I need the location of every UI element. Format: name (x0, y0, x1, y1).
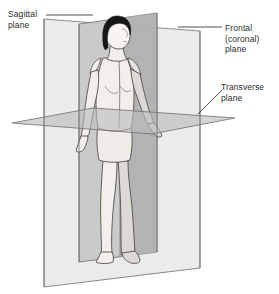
label-sagittal-plane: Sagittal plane (8, 9, 37, 30)
label-transverse-plane: Transverse plane (221, 82, 264, 103)
body-planes-diagram: Sagittal plane Frontal (coronal) plane T… (0, 0, 279, 294)
leader-line-transverse (198, 90, 222, 114)
label-frontal-plane: Frontal (coronal) plane (225, 23, 259, 55)
